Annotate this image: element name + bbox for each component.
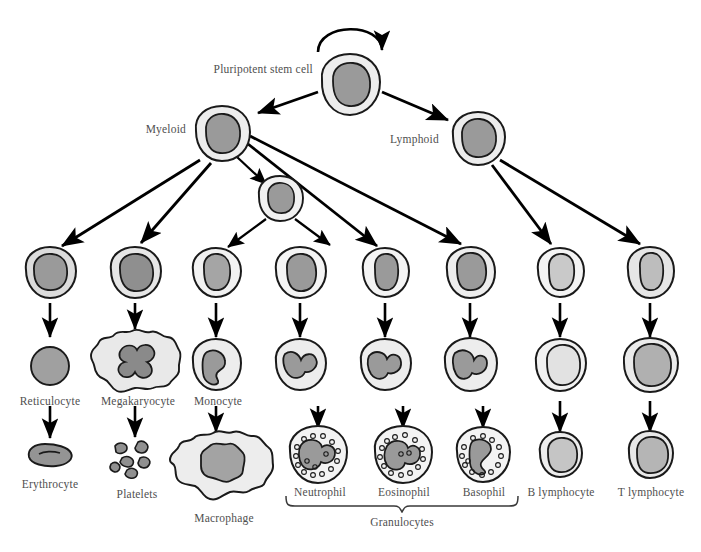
edge-progenitor-monocyte-precursor bbox=[228, 219, 266, 247]
cell-monocyte bbox=[193, 339, 241, 390]
cell-precursor-monocyte bbox=[193, 248, 241, 297]
edge-stem-lymphoid bbox=[382, 92, 448, 120]
cell-precursor-neutrophil bbox=[276, 247, 326, 298]
label-t-lymphocyte: T lymphocyte bbox=[618, 487, 684, 499]
cell-reticulocyte bbox=[31, 347, 69, 385]
edge-myeloid-reticulocyte bbox=[62, 160, 200, 246]
label-eosinophil: Eosinophil bbox=[378, 487, 430, 499]
cell-precursor-t-lymphocyte bbox=[628, 247, 674, 298]
label-basophil: Basophil bbox=[463, 487, 506, 499]
cell-precursor-eosinophil bbox=[363, 248, 409, 297]
cell-band-basophil bbox=[445, 338, 497, 391]
label-granulocytes: Granulocytes bbox=[370, 517, 434, 529]
label-macrophage: Macrophage bbox=[194, 513, 253, 525]
edge-lymphoid-b-precursor bbox=[492, 165, 551, 244]
label-lymphoid: Lymphoid bbox=[390, 134, 439, 146]
cell-erythrocyte bbox=[29, 444, 72, 466]
cell-precursor-b-lymphocyte bbox=[538, 248, 584, 297]
cell-pluripotent-stem-cell bbox=[322, 54, 380, 115]
label-pluripotent-stem-cell: Pluripotent stem cell bbox=[214, 64, 313, 76]
cell-macrophage bbox=[170, 431, 273, 499]
cell-band-eosinophil bbox=[361, 339, 411, 390]
cell-t-lymphocyte bbox=[624, 338, 678, 392]
cell-precursor-megakaryocyte bbox=[111, 247, 161, 298]
label-erythrocyte: Erythrocyte bbox=[22, 479, 78, 491]
cell-eosinophil bbox=[375, 426, 432, 483]
cell-granulocyte-monocyte-progenitor bbox=[259, 176, 303, 221]
edge-progenitor-neutrophil-precursor bbox=[295, 219, 330, 245]
hematopoiesis-diagram: Pluripotent stem cell Myeloid Lymphoid R… bbox=[0, 0, 701, 552]
label-megakaryocyte: Megakaryocyte bbox=[101, 396, 175, 408]
diagram-canvas bbox=[0, 0, 701, 552]
cell-band-neutrophil bbox=[276, 339, 326, 390]
cells-layer bbox=[26, 54, 678, 499]
label-b-lymphocyte: B lymphocyte bbox=[527, 487, 594, 499]
cell-precursor-basophil bbox=[447, 247, 495, 298]
cell-platelets bbox=[110, 441, 150, 478]
label-neutrophil: Neutrophil bbox=[294, 487, 346, 499]
cell-megakaryocyte bbox=[91, 330, 181, 392]
cell-b-lymphocyte-mature bbox=[540, 432, 582, 477]
cell-precursor-reticulocyte bbox=[26, 247, 76, 298]
edge-self-renewal bbox=[318, 29, 382, 52]
label-reticulocyte: Reticulocyte bbox=[20, 396, 81, 408]
cell-lymphoid-progenitor bbox=[453, 112, 505, 165]
label-myeloid: Myeloid bbox=[146, 124, 186, 136]
label-platelets: Platelets bbox=[117, 489, 158, 501]
cell-t-lymphocyte-mature bbox=[629, 431, 673, 478]
label-monocyte: Monocyte bbox=[194, 396, 242, 408]
cell-b-lymphocyte bbox=[536, 339, 586, 391]
edge-myeloid-progenitor bbox=[237, 157, 266, 184]
cell-neutrophil bbox=[290, 426, 347, 483]
cell-basophil bbox=[457, 427, 510, 482]
cell-myeloid-progenitor bbox=[196, 106, 250, 161]
edge-stem-myeloid bbox=[258, 92, 318, 113]
